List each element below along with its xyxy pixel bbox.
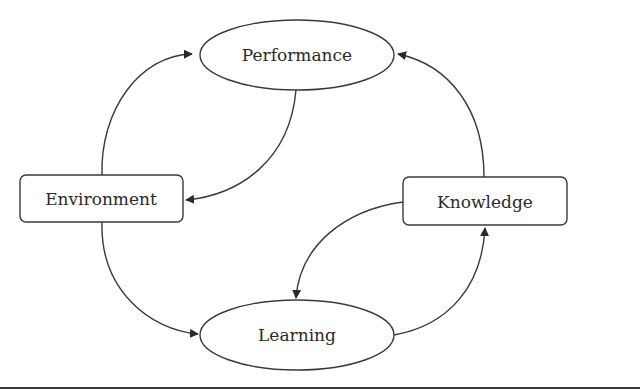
knowledge-label: Knowledge	[437, 192, 533, 212]
node-environment: Environment	[20, 175, 183, 222]
edge-knowledge-to-performance	[398, 54, 484, 177]
learning-label: Learning	[258, 325, 336, 345]
node-knowledge: Knowledge	[403, 177, 567, 225]
edge-knowledge-to-learning	[296, 202, 403, 298]
cycle-diagram: Performance Environment Knowledge Learni…	[0, 0, 640, 390]
edge-learning-to-knowledge	[394, 228, 485, 335]
edge-environment-to-learning	[102, 222, 198, 334]
edge-environment-to-performance	[102, 54, 192, 175]
environment-label: Environment	[45, 189, 157, 209]
performance-label: Performance	[242, 45, 352, 65]
node-performance: Performance	[200, 20, 394, 90]
node-learning: Learning	[200, 300, 394, 370]
edge-performance-to-environment	[186, 90, 296, 200]
